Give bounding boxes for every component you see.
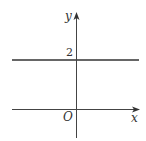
- intercept-label: 2: [66, 46, 73, 59]
- coordinate-diagram: y x O 2: [0, 0, 146, 141]
- x-axis-label: x: [131, 111, 138, 125]
- origin-label: O: [63, 110, 73, 124]
- y-axis-label: y: [64, 9, 72, 23]
